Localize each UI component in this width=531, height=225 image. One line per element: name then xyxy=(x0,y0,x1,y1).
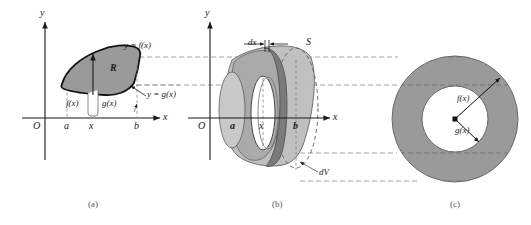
panel-b-tick-b-label: b xyxy=(293,121,298,131)
panel-b-y-axis-label: y xyxy=(205,8,209,18)
panel-a-region-label: R xyxy=(110,63,117,73)
panel-a-upper-curve-label: y = f(x) xyxy=(124,41,151,50)
figure-canvas xyxy=(0,0,531,225)
panel-a-region xyxy=(61,45,140,95)
panel-b-surface-label: S xyxy=(306,37,311,47)
panel-c-outer-radius-label: f(x) xyxy=(457,94,470,103)
panel-a-origin-label: O xyxy=(33,121,40,131)
panel-b-left-cavity xyxy=(219,72,245,148)
panel-a-tick-b-label: b xyxy=(134,121,139,131)
panel-a-y-axis-label: y xyxy=(40,8,44,18)
panel-b-tick-x-label: x xyxy=(259,121,263,131)
panel-a-tick-a-label: a xyxy=(64,121,69,131)
panel-a-caption: (a) xyxy=(88,199,98,209)
panel-a-gx-height-label: g(x) xyxy=(102,99,117,108)
figure-washer-method: y x O a x b R y = f(x) y = g(x) f(x) g(x… xyxy=(0,0,531,225)
panel-a-lower-curve-label: y = g(x) xyxy=(147,90,176,99)
panel-c-graphic xyxy=(392,56,520,182)
panel-b-origin-label: O xyxy=(198,121,205,131)
panel-b-x-axis-label: x xyxy=(333,112,337,122)
panel-a-tick-x-label: x xyxy=(89,121,93,131)
panel-c-caption: (c) xyxy=(450,199,460,209)
panel-b-dv-leader xyxy=(300,162,318,172)
panel-b-tick-a-label: a xyxy=(230,121,235,131)
panel-b-dx-label: dx xyxy=(248,38,257,47)
panel-a-leader-g xyxy=(131,86,146,96)
panel-c-inner-radius-label: g(x) xyxy=(455,126,470,135)
panel-b-caption: (b) xyxy=(272,199,283,209)
panel-b-dv-label: dV xyxy=(319,168,329,177)
panel-a-fx-height-label: f(x) xyxy=(66,99,79,108)
panel-a-x-axis-label: x xyxy=(163,112,167,122)
